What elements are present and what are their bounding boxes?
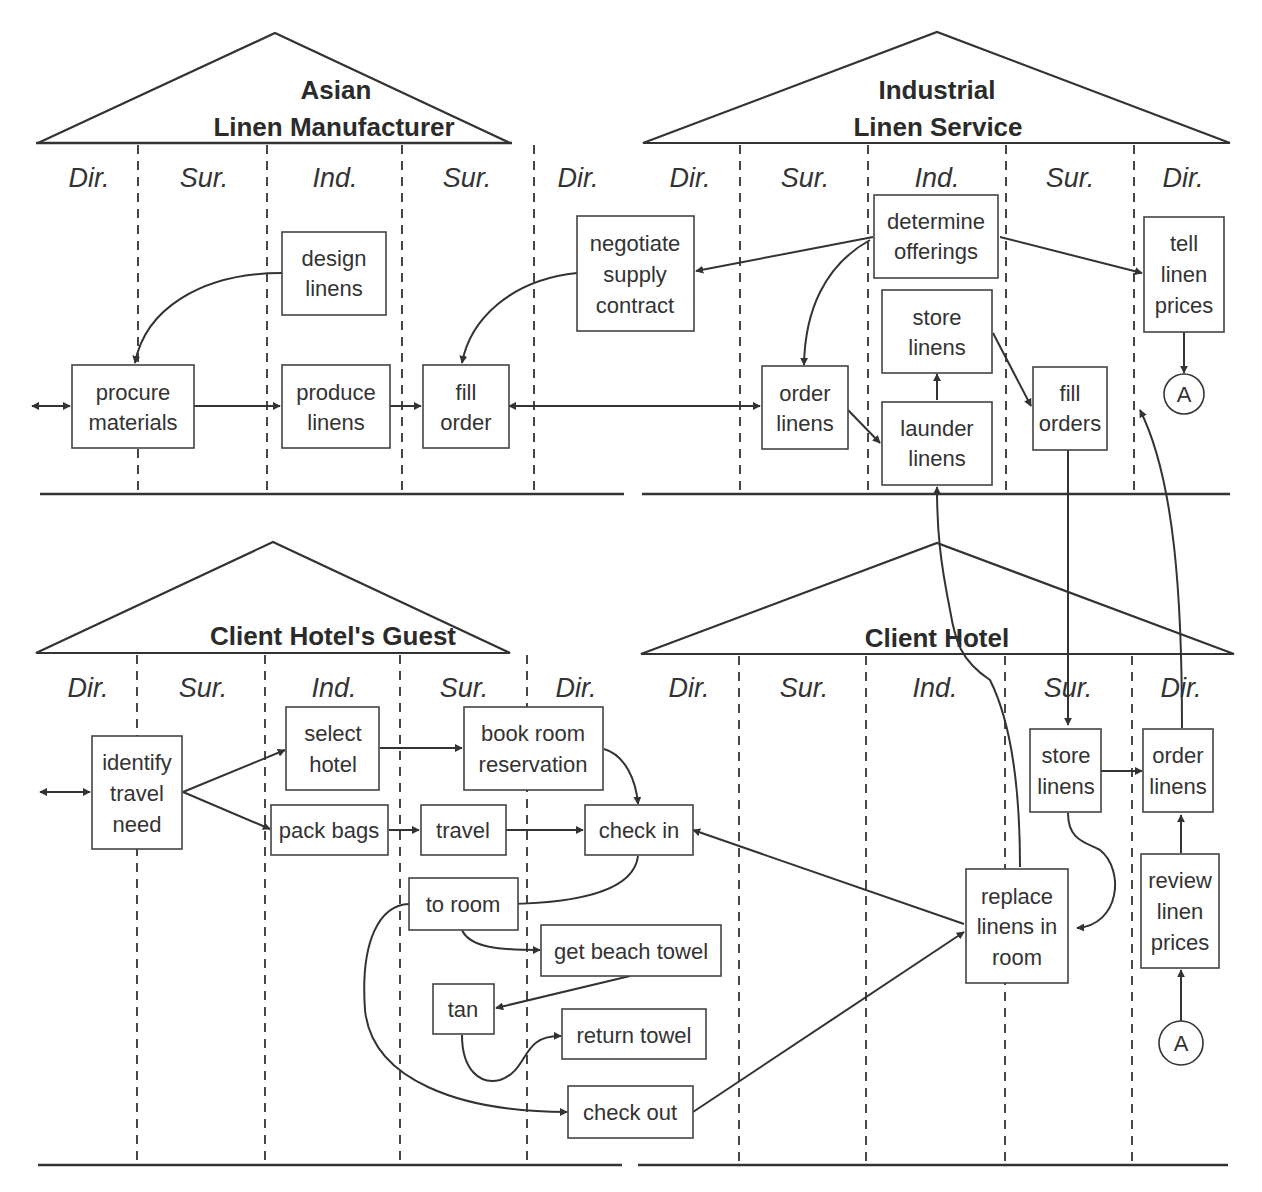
process-launder-linens[interactable]: launder linens	[882, 402, 992, 485]
process-pack-bags[interactable]: pack bags	[271, 805, 388, 855]
process-travel[interactable]: travel	[421, 805, 506, 855]
lane-label-sur: Sur.	[1046, 163, 1095, 193]
process-negotiate-supply-contract[interactable]: negotiate supply contract	[577, 216, 694, 331]
title-ils-line2: Linen Service	[853, 112, 1022, 142]
lane-label-dir: Dir.	[670, 163, 711, 193]
edge-replace-to-check-in	[693, 830, 964, 924]
svg-text:tell: tell	[1170, 231, 1198, 256]
process-tan[interactable]: tan	[433, 984, 494, 1034]
svg-text:travel: travel	[110, 781, 164, 806]
svg-text:tan: tan	[448, 997, 479, 1022]
svg-text:A: A	[1174, 1031, 1189, 1056]
svg-text:linen: linen	[1161, 262, 1207, 287]
svg-text:store: store	[913, 305, 962, 330]
edge-order-to-launder	[848, 410, 880, 443]
title-asian-line2: Linen Manufacturer	[213, 112, 454, 142]
lane-label-dir: Dir.	[1163, 163, 1204, 193]
connector-a-bottom[interactable]: A	[1159, 1021, 1203, 1065]
svg-text:order: order	[440, 410, 491, 435]
svg-text:A: A	[1177, 382, 1192, 407]
lane-label-dir: Dir.	[556, 673, 597, 703]
svg-text:linens: linens	[908, 446, 965, 471]
process-check-out[interactable]: check out	[568, 1086, 693, 1138]
edge-tan-to-return-towel	[462, 1035, 561, 1081]
lane-label-sur: Sur.	[781, 163, 830, 193]
svg-text:linens: linens	[1149, 774, 1206, 799]
process-store-linens-ils[interactable]: store linens	[882, 290, 992, 373]
svg-text:reservation: reservation	[479, 752, 588, 777]
svg-text:orders: orders	[1039, 411, 1101, 436]
lane-label-dir: Dir.	[68, 673, 109, 703]
process-determine-offerings[interactable]: determine offerings	[874, 195, 998, 278]
edge-store-to-fill-orders	[993, 333, 1031, 406]
process-fill-order[interactable]: fill order	[423, 365, 509, 448]
lane-label-dir: Dir.	[558, 163, 599, 193]
process-fill-orders[interactable]: fill orders	[1033, 367, 1107, 450]
process-order-linens-hotel[interactable]: order linens	[1143, 729, 1213, 812]
svg-text:room: room	[992, 945, 1042, 970]
svg-text:design: design	[302, 246, 367, 271]
process-return-towel[interactable]: return towel	[562, 1009, 706, 1059]
title-ils-line1: Industrial	[878, 75, 995, 105]
process-procure-materials[interactable]: procure materials	[72, 365, 194, 448]
edge-identify-to-select	[183, 750, 285, 792]
process-identify-travel-need[interactable]: identify travel need	[92, 736, 182, 849]
svg-text:produce: produce	[296, 380, 376, 405]
lane-label-sur: Sur.	[443, 163, 492, 193]
svg-text:fill: fill	[1060, 381, 1081, 406]
svg-text:return towel: return towel	[577, 1023, 692, 1048]
process-store-linens-hotel[interactable]: store linens	[1030, 729, 1101, 812]
lane-label-sur: Sur.	[179, 673, 228, 703]
svg-text:pack bags: pack bags	[279, 818, 379, 843]
svg-text:check in: check in	[599, 818, 680, 843]
edge-room-to-beach-towel	[462, 930, 540, 950]
svg-text:contract: contract	[596, 293, 674, 318]
edge-check-out-to-replace	[693, 932, 964, 1112]
lane-label-ind: Ind.	[312, 163, 357, 193]
lane-label-ind: Ind.	[914, 163, 959, 193]
svg-text:linens: linens	[1037, 774, 1094, 799]
svg-text:linens: linens	[776, 411, 833, 436]
svg-text:get beach towel: get beach towel	[554, 939, 708, 964]
edge-determine-to-order-linens	[804, 240, 870, 365]
svg-text:prices: prices	[1151, 930, 1210, 955]
edge-determine-to-negotiate	[696, 237, 873, 271]
svg-text:materials: materials	[88, 410, 177, 435]
process-produce-linens[interactable]: produce linens	[282, 365, 390, 448]
edge-determine-to-tell-prices	[1000, 237, 1142, 273]
lane-label-sur: Sur.	[180, 163, 229, 193]
value-network-diagram: Asian Linen Manufacturer Dir. Sur. Ind. …	[0, 0, 1262, 1192]
process-tell-linen-prices[interactable]: tell linen prices	[1144, 217, 1224, 332]
svg-text:procure: procure	[96, 380, 171, 405]
title-client-hotel: Client Hotel	[865, 623, 1009, 653]
svg-text:hotel: hotel	[309, 752, 357, 777]
svg-text:identify: identify	[102, 750, 172, 775]
svg-text:launder: launder	[900, 416, 973, 441]
svg-text:linens in: linens in	[977, 914, 1058, 939]
process-design-linens[interactable]: design linens	[282, 232, 386, 315]
process-replace-linens-in-room[interactable]: replace linens in room	[966, 869, 1068, 983]
title-asian-line1: Asian	[301, 75, 372, 105]
edge-design-to-procure	[135, 273, 282, 363]
process-order-linens-ils[interactable]: order linens	[762, 366, 848, 449]
process-to-room[interactable]: to room	[409, 878, 518, 930]
process-review-linen-prices[interactable]: review linen prices	[1141, 854, 1219, 968]
svg-text:linens: linens	[305, 276, 362, 301]
process-get-beach-towel[interactable]: get beach towel	[541, 925, 721, 976]
svg-text:offerings: offerings	[894, 239, 978, 264]
lane-label-sur: Sur.	[780, 673, 829, 703]
svg-text:prices: prices	[1155, 293, 1214, 318]
svg-text:book room: book room	[481, 721, 585, 746]
svg-text:replace: replace	[981, 884, 1053, 909]
process-book-room-reservation[interactable]: book room reservation	[464, 707, 603, 790]
svg-text:check out: check out	[583, 1100, 677, 1125]
lane-label-sur: Sur.	[440, 673, 489, 703]
svg-text:fill: fill	[456, 380, 477, 405]
edge-beach-towel-to-tan	[496, 976, 630, 1008]
svg-text:to room: to room	[426, 892, 501, 917]
process-check-in[interactable]: check in	[585, 805, 693, 855]
svg-text:supply: supply	[603, 262, 667, 287]
process-select-hotel[interactable]: select hotel	[286, 707, 379, 790]
svg-text:linen: linen	[1157, 899, 1203, 924]
connector-a-top[interactable]: A	[1164, 374, 1204, 414]
